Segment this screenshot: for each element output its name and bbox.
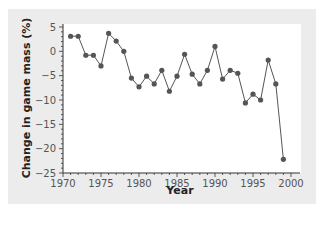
data-point	[266, 57, 271, 62]
data-point	[190, 72, 195, 77]
data-point	[114, 39, 119, 44]
x-axis-title: Year	[165, 184, 194, 197]
x-tick-label: 1970	[50, 178, 75, 189]
data-point	[243, 100, 248, 105]
y-tick-label: −20	[35, 143, 56, 154]
data-point	[258, 97, 263, 102]
y-tick-label: −25	[35, 168, 56, 179]
data-point	[106, 31, 111, 36]
y-tick-label: 5	[50, 22, 56, 33]
data-series	[68, 31, 286, 162]
data-point	[159, 68, 164, 73]
x-tick-label: 1995	[240, 178, 265, 189]
data-point	[76, 34, 81, 39]
data-point	[152, 81, 157, 86]
axes	[63, 24, 300, 173]
series-line	[71, 33, 284, 159]
x-tick-label: 2000	[278, 178, 303, 189]
data-point	[83, 53, 88, 58]
line-chart: 50−5−10−15−20−25 19701975198019851990199…	[0, 0, 328, 225]
x-tick-label: 1990	[202, 178, 227, 189]
data-point	[228, 68, 233, 73]
data-point	[205, 68, 210, 73]
data-point	[174, 74, 179, 79]
y-axis-title: Change in game mass (%)	[20, 18, 33, 179]
data-point	[121, 49, 126, 54]
data-point	[235, 71, 240, 76]
data-point	[68, 34, 73, 39]
data-point	[182, 52, 187, 57]
data-point	[197, 81, 202, 86]
data-point	[273, 81, 278, 86]
y-tick-label: −10	[35, 95, 56, 106]
y-tick-label: −15	[35, 119, 56, 130]
data-point	[212, 44, 217, 49]
y-tick-label: 0	[50, 46, 56, 57]
data-point	[129, 76, 134, 81]
data-point	[136, 84, 141, 89]
y-axis-ticks: 50−5−10−15−20−25	[35, 22, 63, 179]
data-point	[167, 89, 172, 94]
data-point	[91, 53, 96, 58]
data-point	[250, 92, 255, 97]
x-tick-label: 1975	[88, 178, 113, 189]
x-tick-label: 1980	[126, 178, 151, 189]
data-point	[144, 74, 149, 79]
data-point	[220, 76, 225, 81]
data-point	[281, 157, 286, 162]
y-tick-label: −5	[41, 70, 56, 81]
data-point	[98, 63, 103, 68]
